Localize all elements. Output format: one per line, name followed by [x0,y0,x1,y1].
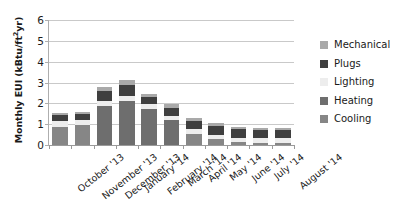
bar-segment-cooling[interactable] [208,139,224,145]
y-axis-title-tail: yr) [13,17,24,32]
y-axis-tick-label: 6 [37,15,44,26]
bar-segment-heating[interactable] [164,120,180,145]
y-axis-tick-label: 4 [37,56,44,67]
bar-column[interactable] [97,87,113,145]
legend-swatch-icon [320,97,328,105]
bar-segment-cooling[interactable] [275,143,291,146]
x-axis-tick-mark [294,145,295,149]
y-axis-tick-label: 3 [37,77,44,88]
legend-item[interactable]: Heating [320,96,390,106]
bar-column[interactable] [253,128,269,145]
bar-column[interactable] [75,112,91,145]
legend-label: Mechanical [334,40,390,50]
x-axis-labels: October '13November '13December '13Janua… [48,150,293,217]
bar-segment-cooling[interactable] [186,134,202,145]
bar-column[interactable] [52,113,68,145]
legend-swatch-icon [320,78,328,86]
y-axis-tick-label: 0 [37,140,44,151]
plot-area: 0123456 [48,20,294,145]
y-axis-title: Monthly EUI (kBtu/ft2yr) [12,10,24,150]
bar-segment-heating[interactable] [119,101,135,145]
y-axis-tick-label: 2 [37,98,44,109]
legend-label: Cooling [334,114,371,124]
y-axis-tick-label: 5 [37,36,44,47]
bar-segment-plugs[interactable] [186,121,202,129]
x-axis-tick-mark [49,145,50,149]
bar-segment-heating[interactable] [97,106,113,145]
x-axis-tick-mark [205,145,206,149]
bar-column[interactable] [119,80,135,145]
bar-segment-cooling[interactable] [52,127,68,145]
legend-swatch-icon [320,41,328,49]
bar-segment-plugs[interactable] [141,97,157,104]
x-axis-tick-mark [116,145,117,149]
x-axis-tick-mark [138,145,139,149]
y-axis-title-exponent: 2 [12,32,20,36]
y-axis-tick-label: 1 [37,119,44,130]
x-axis-tick-mark [160,145,161,149]
legend-item[interactable]: Plugs [320,59,390,69]
x-axis-tick-mark [71,145,72,149]
bars-group [49,20,294,145]
y-axis-title-main: Monthly EUI (kBtu/ft [13,36,24,143]
bar-column[interactable] [141,94,157,145]
bar-segment-plugs[interactable] [275,130,291,138]
stacked-bar-chart: Monthly EUI (kBtu/ft2yr) 0123456 October… [0,0,408,217]
legend-item[interactable]: Cooling [320,114,390,124]
legend-swatch-icon [320,115,328,123]
bar-segment-heating[interactable] [141,109,157,145]
x-axis-tick-mark [94,145,95,149]
x-axis-tick-mark [272,145,273,149]
legend-label: Lighting [334,77,374,87]
bar-segment-plugs[interactable] [164,108,180,116]
bar-column[interactable] [186,118,202,145]
bar-segment-plugs[interactable] [253,130,269,138]
x-axis-tick-mark [249,145,250,149]
bar-segment-plugs[interactable] [208,126,224,134]
bar-segment-plugs[interactable] [119,85,135,96]
legend-label: Plugs [334,59,361,69]
bar-column[interactable] [275,128,291,145]
x-axis-tick-mark [183,145,184,149]
chart-legend: MechanicalPlugsLightingHeatingCooling [320,40,390,124]
bar-segment-plugs[interactable] [231,129,247,137]
legend-item[interactable]: Lighting [320,77,390,87]
bar-segment-cooling[interactable] [231,142,247,145]
gridline [49,145,294,146]
x-axis-tick-mark [227,145,228,149]
bar-segment-cooling[interactable] [253,143,269,146]
bar-column[interactable] [164,104,180,145]
bar-column[interactable] [208,123,224,145]
legend-label: Heating [334,96,373,106]
legend-swatch-icon [320,60,328,68]
bar-segment-plugs[interactable] [97,91,113,101]
bar-segment-cooling[interactable] [75,125,91,145]
bar-column[interactable] [231,127,247,145]
legend-item[interactable]: Mechanical [320,40,390,50]
